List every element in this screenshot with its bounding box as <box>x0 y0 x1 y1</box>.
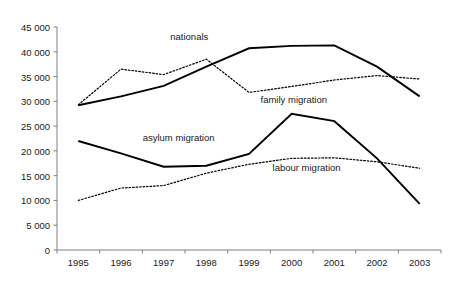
x-axis-tick-label: 2001 <box>324 257 345 268</box>
x-axis-tick-label: 1999 <box>238 257 259 268</box>
y-axis-tick-label: 25 000 <box>21 121 50 132</box>
x-axis-tick-label: 1998 <box>196 257 217 268</box>
series-label-family-migration: family migration <box>261 94 328 105</box>
x-axis-tick-label: 2003 <box>409 257 430 268</box>
y-axis-tick-label: 30 000 <box>21 96 50 107</box>
y-axis-tick-label: 5 000 <box>26 220 50 231</box>
series-line-nationals <box>78 45 419 105</box>
series-line-family-migration <box>78 59 419 105</box>
x-axis-tick-label: 2002 <box>366 257 387 268</box>
x-axis-tick-label: 1995 <box>68 257 89 268</box>
y-axis-tick-label: 15 000 <box>21 170 50 181</box>
y-axis-ticks <box>54 27 58 250</box>
x-axis-ticks <box>57 250 441 254</box>
y-axis-tick-label: 0 <box>45 245 50 256</box>
plot-area <box>0 0 456 282</box>
axes-group <box>54 27 442 254</box>
y-axis-tick-label: 10 000 <box>21 195 50 206</box>
y-axis-tick-label: 40 000 <box>21 46 50 57</box>
x-axis-tick-label: 1997 <box>153 257 174 268</box>
x-axis-tick-label: 2000 <box>281 257 302 268</box>
line-chart-migration: 05 00010 00015 00020 00025 00030 00035 0… <box>0 0 456 282</box>
series-label-asylum-migration: asylum migration <box>143 131 215 142</box>
series-line-asylum-migration <box>78 114 419 204</box>
series-label-labour-migration: labour migration <box>273 162 341 173</box>
series-line-labour-migration <box>78 158 419 201</box>
data-series-group <box>78 45 419 204</box>
y-axis-tick-label: 20 000 <box>21 145 50 156</box>
series-label-nationals: nationals <box>170 31 208 42</box>
y-axis-tick-label: 35 000 <box>21 71 50 82</box>
x-axis-tick-label: 1996 <box>110 257 131 268</box>
y-axis-tick-label: 45 000 <box>21 22 50 33</box>
